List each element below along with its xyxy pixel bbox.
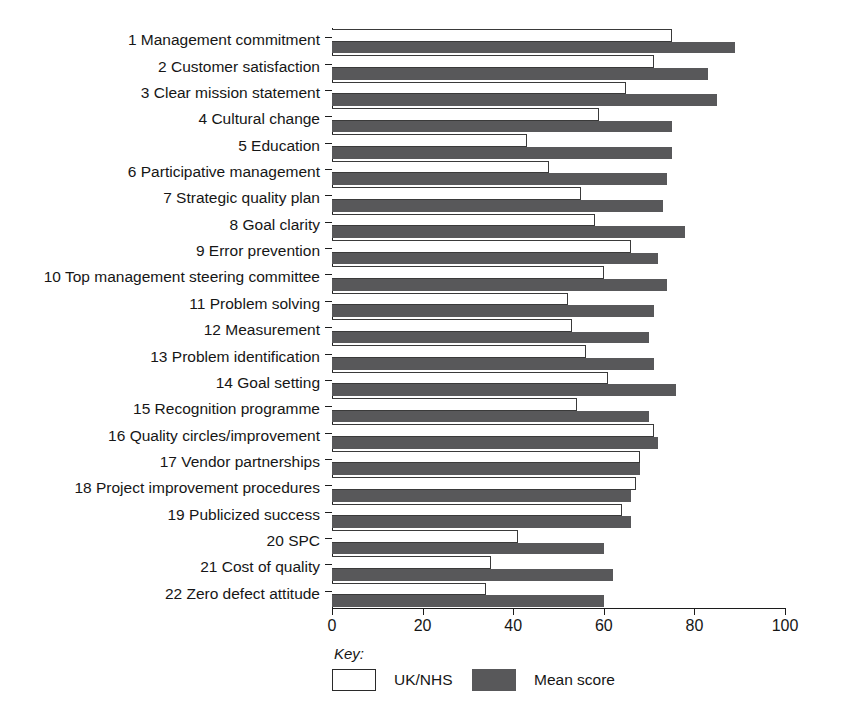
- x-axis-tick-label: 0: [328, 617, 337, 635]
- category-tick-mark: [325, 459, 332, 460]
- category-label: 12 Measurement: [0, 322, 326, 338]
- bar-mean-score: [332, 569, 613, 581]
- category-tick-mark: [325, 485, 332, 486]
- category-label: 13 Problem identification: [0, 349, 326, 365]
- bar-mean-score: [332, 305, 654, 317]
- category-label: 9 Error prevention: [0, 243, 326, 259]
- legend: Key: UK/NHS Mean score: [332, 645, 752, 705]
- bar-mean-score: [332, 490, 631, 502]
- category-label: 5 Education: [0, 138, 326, 154]
- x-axis-tick-label: 80: [685, 617, 703, 635]
- x-axis-tick-mark: [513, 608, 514, 615]
- bar-mean-score: [332, 121, 672, 133]
- x-axis-tick-mark: [332, 608, 333, 615]
- chart-category-row: 6 Participative management: [0, 160, 843, 186]
- bar-uk-nhs: [332, 82, 626, 95]
- bar-uk-nhs: [332, 477, 636, 490]
- bar-uk-nhs: [332, 29, 672, 42]
- legend-title: Key:: [334, 645, 364, 662]
- category-label: 16 Quality circles/improvement: [0, 428, 326, 444]
- bar-uk-nhs: [332, 293, 568, 306]
- legend-label-mean-score: Mean score: [534, 671, 615, 689]
- chart-category-row: 15 Recognition programme: [0, 397, 843, 423]
- category-tick-mark: [325, 301, 332, 302]
- x-axis-tick-label: 40: [504, 617, 522, 635]
- x-axis-tick-mark: [785, 608, 786, 615]
- chart-category-row: 14 Goal setting: [0, 371, 843, 397]
- bar-uk-nhs: [332, 55, 654, 68]
- category-label: 14 Goal setting: [0, 375, 326, 391]
- category-label: 18 Project improvement procedures: [0, 480, 326, 496]
- chart-category-row: 5 Education: [0, 133, 843, 159]
- chart-category-row: 18 Project improvement procedures: [0, 476, 843, 502]
- category-label: 1 Management commitment: [0, 32, 326, 48]
- bar-mean-score: [332, 279, 667, 291]
- x-axis-tick-mark: [604, 608, 605, 615]
- bar-uk-nhs: [332, 108, 599, 121]
- chart-category-row: 20 SPC: [0, 529, 843, 555]
- x-axis-tick-label: 20: [414, 617, 432, 635]
- bar-mean-score: [332, 332, 649, 344]
- chart-category-row: 7 Strategic quality plan: [0, 186, 843, 212]
- category-tick-mark: [325, 274, 332, 275]
- chart-category-row: 9 Error prevention: [0, 239, 843, 265]
- category-label: 7 Strategic quality plan: [0, 190, 326, 206]
- legend-swatch-uk-nhs: [332, 669, 376, 691]
- category-tick-mark: [325, 169, 332, 170]
- bar-uk-nhs: [332, 451, 640, 464]
- bar-chart: 1 Management commitment2 Customer satisf…: [0, 0, 843, 723]
- chart-category-row: 10 Top management steering committee: [0, 265, 843, 291]
- x-axis-tick-label: 100: [772, 617, 799, 635]
- x-axis-tick-label: 60: [595, 617, 613, 635]
- bar-uk-nhs: [332, 240, 631, 253]
- chart-category-row: 1 Management commitment: [0, 28, 843, 54]
- bar-uk-nhs: [332, 319, 572, 332]
- bar-uk-nhs: [332, 214, 595, 227]
- chart-category-row: 17 Vendor partnerships: [0, 450, 843, 476]
- bar-mean-score: [332, 94, 717, 106]
- chart-category-row: 11 Problem solving: [0, 292, 843, 318]
- bar-uk-nhs: [332, 556, 491, 569]
- category-label: 3 Clear mission statement: [0, 85, 326, 101]
- bar-uk-nhs: [332, 134, 527, 147]
- bar-uk-nhs: [332, 504, 622, 517]
- chart-category-row: 2 Customer satisfaction: [0, 54, 843, 80]
- bar-uk-nhs: [332, 372, 608, 385]
- category-label: 10 Top management steering committee: [0, 269, 326, 285]
- category-tick-mark: [325, 248, 332, 249]
- x-axis-tick-mark: [694, 608, 695, 615]
- category-tick-mark: [325, 406, 332, 407]
- bar-mean-score: [332, 463, 640, 475]
- category-tick-mark: [325, 327, 332, 328]
- bar-uk-nhs: [332, 266, 604, 279]
- category-label: 4 Cultural change: [0, 111, 326, 127]
- chart-category-row: 4 Cultural change: [0, 107, 843, 133]
- category-label: 8 Goal clarity: [0, 217, 326, 233]
- bar-uk-nhs: [332, 583, 486, 596]
- category-label: 22 Zero defect attitude: [0, 586, 326, 602]
- bar-mean-score: [332, 516, 631, 528]
- category-tick-mark: [325, 591, 332, 592]
- category-tick-mark: [325, 564, 332, 565]
- category-tick-mark: [325, 512, 332, 513]
- category-label: 11 Problem solving: [0, 296, 326, 312]
- legend-swatch-mean-score: [472, 669, 516, 691]
- bar-mean-score: [332, 253, 658, 265]
- category-tick-mark: [325, 222, 332, 223]
- category-label: 17 Vendor partnerships: [0, 454, 326, 470]
- chart-category-row: 13 Problem identification: [0, 344, 843, 370]
- legend-label-uk-nhs: UK/NHS: [394, 671, 453, 689]
- bar-mean-score: [332, 384, 676, 396]
- chart-category-row: 19 Publicized success: [0, 503, 843, 529]
- bar-uk-nhs: [332, 161, 549, 174]
- bar-mean-score: [332, 147, 672, 159]
- x-axis-tick-mark: [423, 608, 424, 615]
- chart-category-row: 3 Clear mission statement: [0, 81, 843, 107]
- category-tick-mark: [325, 195, 332, 196]
- category-tick-mark: [325, 116, 332, 117]
- category-label: 15 Recognition programme: [0, 401, 326, 417]
- category-label: 2 Customer satisfaction: [0, 59, 326, 75]
- bar-mean-score: [332, 358, 654, 370]
- bar-mean-score: [332, 437, 658, 449]
- chart-category-row: 22 Zero defect attitude: [0, 582, 843, 608]
